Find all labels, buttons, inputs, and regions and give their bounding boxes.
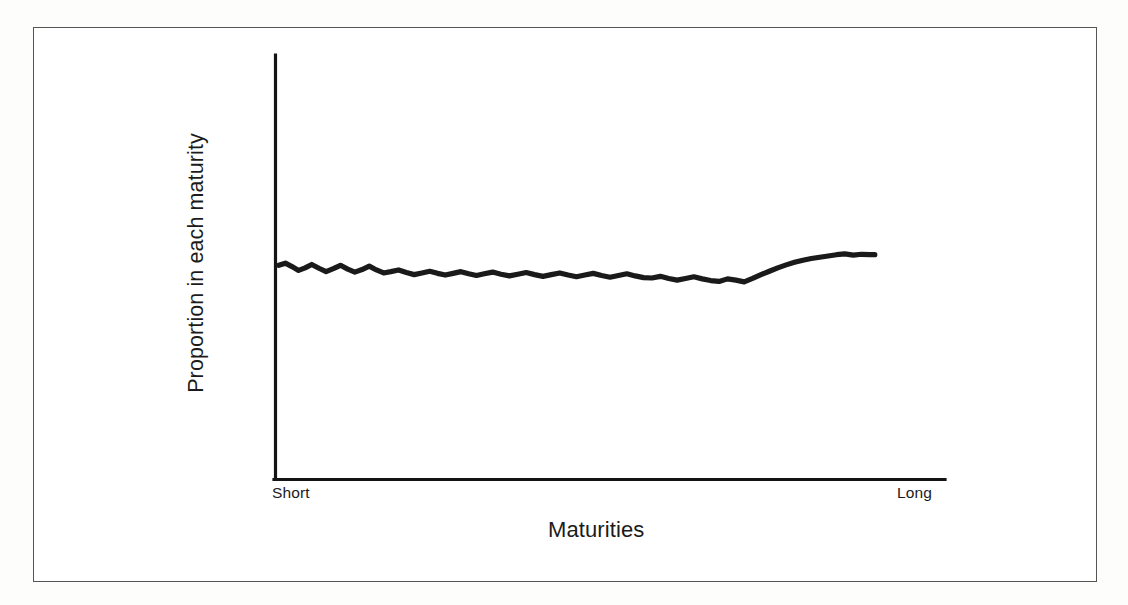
- x-axis-title: Maturities: [548, 517, 644, 543]
- x-axis-tick-label-short: Short: [272, 484, 310, 502]
- figure-root: Short Long Maturities Proportion in each…: [0, 0, 1128, 605]
- y-axis-title-text: Proportion in each maturity: [184, 133, 209, 393]
- chart-plot-area: [0, 0, 1128, 605]
- x-axis-tick-label-long: Long: [897, 484, 932, 502]
- data-series-line: [279, 254, 875, 282]
- data-series-group: [279, 254, 875, 282]
